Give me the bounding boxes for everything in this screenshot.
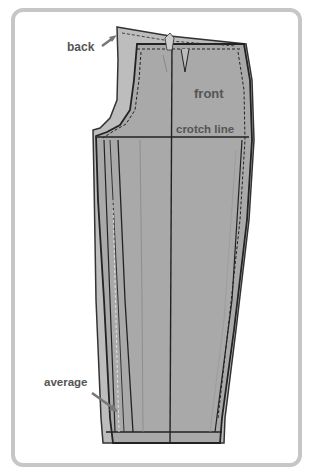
label-back: back	[67, 40, 95, 54]
label-crotch-line: crotch line	[176, 123, 234, 135]
trouser-pattern-diagram: back front crotch line average	[0, 0, 309, 469]
label-average: average	[44, 376, 87, 388]
label-front: front	[194, 86, 224, 101]
